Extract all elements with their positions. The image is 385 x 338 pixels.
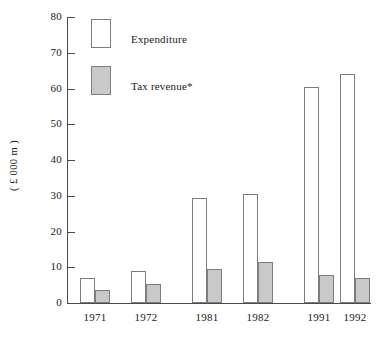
legend-label-expenditure: Expenditure: [131, 33, 187, 45]
bar-tax-revenue-1991: [319, 275, 334, 303]
x-axis-label-1971: 1971: [75, 311, 115, 323]
y-tick-mark: [68, 196, 75, 197]
y-tick-label: 60: [14, 83, 62, 94]
legend-label-tax-revenue: Tax revenue*: [131, 80, 193, 92]
bar-expenditure-1992: [340, 74, 355, 303]
y-tick-mark: [68, 89, 75, 90]
x-axis-line: [67, 303, 371, 304]
y-tick-mark: [68, 124, 75, 125]
bar-tax-revenue-1972: [146, 284, 161, 303]
bar-chart: ( £ 000 m ) 01020304050607080 1971197219…: [0, 0, 385, 338]
y-tick-label: 20: [14, 226, 62, 237]
y-tick-label-wrap: 40: [10, 154, 62, 165]
x-axis-label-1991: 1991: [299, 311, 339, 323]
y-tick-label: 40: [14, 154, 62, 165]
y-tick-mark: [68, 267, 75, 268]
bar-expenditure-1981: [192, 198, 207, 303]
y-tick-mark: [68, 17, 75, 18]
bar-expenditure-1991: [304, 87, 319, 303]
y-tick-label: 70: [14, 47, 62, 58]
y-tick-label: 0: [14, 297, 62, 308]
bar-expenditure-1972: [131, 271, 146, 303]
y-tick-label-wrap: 10: [10, 261, 62, 272]
bar-tax-revenue-1982: [258, 262, 273, 303]
y-tick-label-wrap: 30: [10, 190, 62, 201]
x-axis-label-1992: 1992: [335, 311, 375, 323]
y-tick-label: 50: [14, 118, 62, 129]
x-axis-label-1981: 1981: [187, 311, 227, 323]
y-tick-mark: [68, 303, 75, 304]
y-tick-mark: [68, 53, 75, 54]
x-axis-label-1982: 1982: [238, 311, 278, 323]
bar-tax-revenue-1971: [95, 290, 110, 303]
y-tick-label-wrap: 0: [10, 297, 62, 308]
y-tick-label-wrap: 20: [10, 226, 62, 237]
legend-swatch-expenditure: [91, 19, 111, 48]
bar-expenditure-1971: [80, 278, 95, 303]
x-axis-label-1972: 1972: [126, 311, 166, 323]
y-tick-label-wrap: 80: [10, 11, 62, 22]
bar-expenditure-1982: [243, 194, 258, 303]
bar-tax-revenue-1981: [207, 269, 222, 303]
y-tick-label: 80: [14, 11, 62, 22]
y-tick-label-wrap: 50: [10, 118, 62, 129]
y-tick-label-wrap: 70: [10, 47, 62, 58]
y-tick-label: 30: [14, 190, 62, 201]
y-tick-label-wrap: 60: [10, 83, 62, 94]
y-tick-mark: [68, 232, 75, 233]
legend-swatch-tax-revenue: [91, 66, 111, 95]
y-tick-label: 10: [14, 261, 62, 272]
bar-tax-revenue-1992: [355, 278, 370, 303]
y-tick-mark: [68, 160, 75, 161]
